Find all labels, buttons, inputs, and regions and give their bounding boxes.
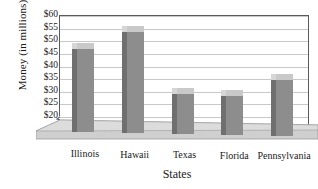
y-tick-label: $55	[4, 23, 58, 33]
bar	[221, 90, 243, 135]
y-tick-label: $60	[4, 10, 58, 20]
bar	[72, 43, 94, 132]
x-tick-label: Pennsylvania	[242, 150, 318, 161]
bar	[172, 88, 194, 134]
x-axis-title: States	[36, 167, 318, 182]
y-tick-label: $35	[4, 73, 58, 83]
y-tick-label: $25	[4, 98, 58, 108]
y-tick-label: $40	[4, 61, 58, 71]
gridline	[60, 54, 308, 55]
y-tick-label: $45	[4, 48, 58, 58]
bar	[122, 26, 144, 133]
gridline	[60, 29, 308, 30]
bar-front-face	[276, 80, 293, 136]
bar-front-face	[127, 32, 144, 133]
bar	[271, 74, 293, 136]
bar-front-face	[177, 94, 194, 134]
y-tick-label: $50	[4, 35, 58, 45]
bar-chart: Money (in millions) $60$55$50$45$40$35$3…	[0, 0, 318, 189]
y-tick-label: $30	[4, 86, 58, 96]
gridline	[60, 67, 308, 68]
bar-front-face	[77, 49, 94, 132]
gridline	[60, 16, 308, 17]
bar-front-face	[226, 96, 243, 135]
gridline	[60, 41, 308, 42]
